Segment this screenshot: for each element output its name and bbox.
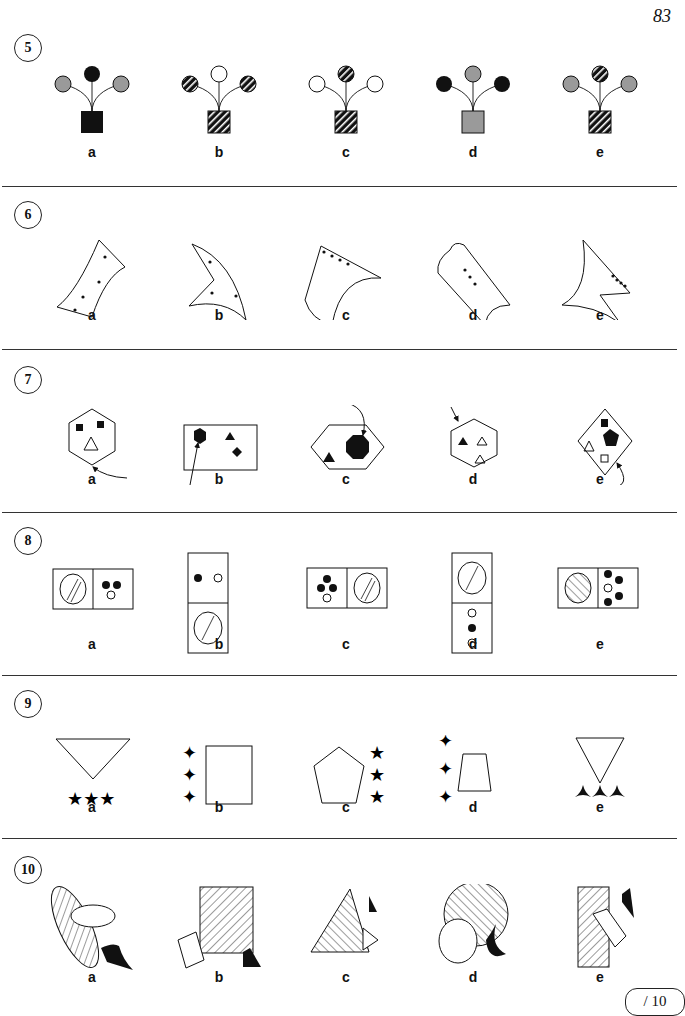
q6-label-d: d: [463, 307, 483, 323]
question-number-10: 10: [14, 856, 42, 884]
q10-option-e[interactable]: [545, 884, 655, 974]
q10-option-c[interactable]: [291, 884, 401, 974]
divider: [2, 186, 677, 187]
q6-label-b: b: [209, 307, 229, 323]
svg-text:★: ★: [369, 742, 385, 763]
divider: [2, 349, 677, 350]
svg-text:✦: ✦: [182, 786, 197, 807]
q5-option-e[interactable]: [545, 62, 655, 134]
q10-label-a: a: [82, 969, 102, 985]
q10-label-b: b: [209, 969, 229, 985]
q7-label-d: d: [463, 471, 483, 487]
q10-label-e: e: [590, 969, 610, 985]
q9-label-e: e: [590, 799, 610, 815]
divider: [2, 838, 677, 839]
q7-label-a: a: [82, 471, 102, 487]
q8-label-b: b: [209, 636, 229, 652]
q5-option-a[interactable]: [37, 62, 147, 134]
q5-label-c: c: [336, 144, 356, 160]
q5-label-b: b: [209, 144, 229, 160]
q7-label-c: c: [336, 471, 356, 487]
svg-text:✦: ✦: [182, 742, 197, 763]
q9-label-b: b: [209, 799, 229, 815]
q5-label-e: e: [590, 144, 610, 160]
q8-label-c: c: [336, 636, 356, 652]
divider: [2, 512, 677, 513]
q7-label-e: e: [590, 471, 610, 487]
question-number-6: 6: [14, 201, 42, 229]
svg-text:✦: ✦: [438, 758, 453, 779]
q8-label-a: a: [82, 636, 102, 652]
q10-option-b[interactable]: [164, 884, 274, 974]
q7-label-b: b: [209, 471, 229, 487]
q10-label-d: d: [463, 969, 483, 985]
q6-label-c: c: [336, 307, 356, 323]
q6-label-e: e: [590, 307, 610, 323]
q10-label-c: c: [336, 969, 356, 985]
svg-text:✦: ✦: [438, 786, 453, 807]
q6-label-a: a: [82, 307, 102, 323]
q5-option-d[interactable]: [418, 62, 528, 134]
question-number-9: 9: [14, 690, 42, 718]
q5-label-d: d: [463, 144, 483, 160]
q5-option-b[interactable]: [164, 62, 274, 134]
svg-text:★: ★: [369, 764, 385, 785]
score-box: / 10: [625, 988, 685, 1016]
q9-label-d: d: [463, 799, 483, 815]
q5-label-a: a: [82, 144, 102, 160]
q5-option-c[interactable]: [291, 62, 401, 134]
question-number-5: 5: [14, 34, 42, 62]
svg-text:✦: ✦: [438, 735, 453, 751]
q10-option-a[interactable]: [37, 884, 147, 974]
q9-label-a: a: [82, 799, 102, 815]
svg-text:★: ★: [369, 786, 385, 807]
divider: [2, 675, 677, 676]
q9-label-c: c: [336, 799, 356, 815]
svg-text:✦: ✦: [182, 764, 197, 785]
question-number-7: 7: [14, 366, 42, 394]
q8-label-e: e: [590, 636, 610, 652]
page-number: 83: [653, 6, 671, 27]
q10-option-d[interactable]: [418, 884, 528, 974]
q8-label-d: d: [463, 636, 483, 652]
